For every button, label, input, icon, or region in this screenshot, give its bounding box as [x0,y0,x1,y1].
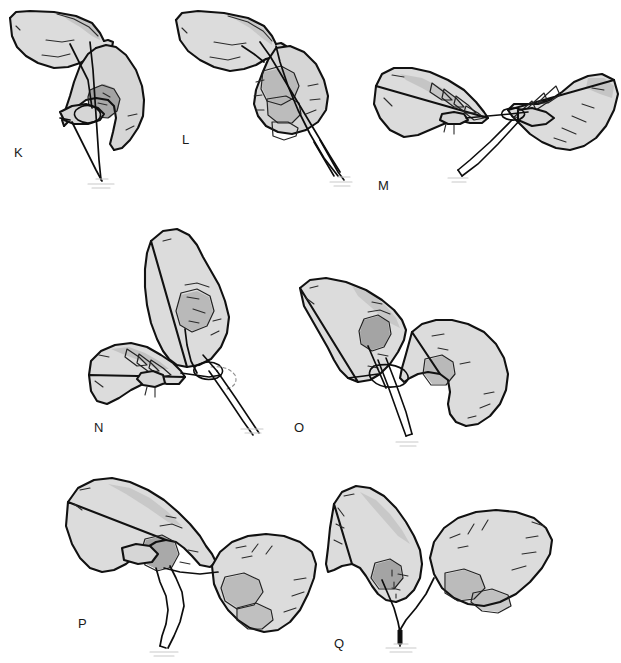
panel-label-l: L [182,133,189,146]
panel-p: P [60,470,320,660]
hand-right-fist [212,534,316,632]
suture-loop-long [156,566,218,648]
tissue-shadow [330,177,352,186]
tissue-shadow [396,442,418,446]
panel-q-illustration [322,478,572,658]
panel-label-n: N [94,421,104,434]
panel-q: Q [322,478,572,658]
hand-right-fist [430,510,552,613]
hand-left-pointing [326,486,422,602]
panel-n: N [85,225,315,435]
tissue-shadow [448,178,468,182]
tissue-shadow [150,652,178,656]
hand-left [374,68,488,137]
panel-l-illustration [168,0,368,200]
panel-label-o: O [294,421,304,434]
panel-m: M [370,50,620,210]
hand-right-open [400,320,508,426]
panel-o-illustration [288,268,518,448]
panel-p-illustration [60,470,320,660]
panel-label-m: M [378,179,389,192]
tissue-shadow [386,644,416,652]
panel-m-illustration [370,50,620,210]
figure-root: K [0,0,621,663]
panel-o: O [288,268,518,448]
panel-label-k: K [14,146,23,159]
hand-left-angled [300,278,406,382]
panel-n-illustration [85,225,315,435]
panel-l: L [168,0,368,200]
panel-label-p: P [78,617,87,630]
panel-label-q: Q [334,637,344,650]
